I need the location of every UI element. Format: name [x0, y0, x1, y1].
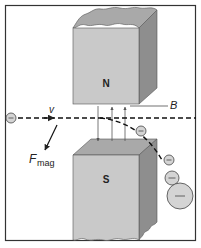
- south-pole-label: S: [103, 174, 110, 185]
- south-magnet: S: [73, 139, 157, 240]
- force-label-subscript: mag: [37, 158, 55, 168]
- force-label: F: [29, 152, 37, 166]
- electron: [164, 155, 174, 165]
- north-pole-label: N: [102, 78, 109, 89]
- north-magnet-front: [73, 28, 139, 104]
- electron: [136, 126, 146, 136]
- electron: [6, 113, 16, 123]
- south-magnet-front: [73, 155, 139, 240]
- electron: [167, 183, 193, 209]
- diagram-canvas: N B S v F mag: [0, 0, 201, 248]
- electron: [165, 171, 179, 185]
- north-magnet: N: [73, 7, 157, 104]
- field-label: B: [170, 99, 177, 111]
